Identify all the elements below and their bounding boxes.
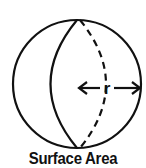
sphere-outline — [13, 20, 141, 148]
radius-label: r — [104, 79, 111, 98]
radius-indicator: r — [79, 79, 140, 98]
sphere-surface-area-diagram: r Surface Area — [0, 0, 146, 168]
sphere-drawing: r — [0, 0, 146, 168]
front-meridian-arc — [51, 20, 78, 148]
figure-caption: Surface Area — [9, 150, 137, 168]
